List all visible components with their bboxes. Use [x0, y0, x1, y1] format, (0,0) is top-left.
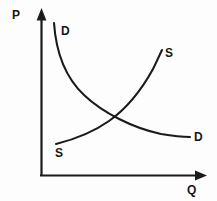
- quantity-axis-label: Q: [187, 184, 196, 196]
- supply-demand-figure: P Q D D S S: [0, 0, 217, 201]
- right-arrow-icon: [195, 171, 207, 181]
- price-axis-label: P: [12, 9, 20, 21]
- supply-curve-label-top: S: [165, 47, 173, 59]
- demand-curve: [54, 23, 190, 137]
- demand-curve-label-top: D: [61, 25, 70, 37]
- demand-curve-label-end: D: [194, 131, 203, 143]
- diagram-canvas: [0, 0, 217, 201]
- supply-curve-label-start: S: [55, 147, 63, 159]
- up-arrow-icon: [37, 8, 47, 21]
